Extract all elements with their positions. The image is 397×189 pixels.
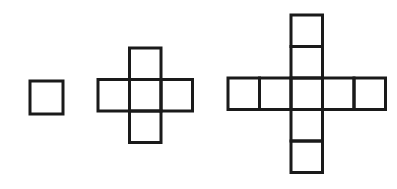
square-tile (98, 80, 130, 112)
square-tile (291, 78, 323, 110)
square-tile (130, 80, 162, 112)
figure-2-five-square-cross (98, 48, 193, 143)
square-tile (130, 111, 162, 143)
square-tile (161, 80, 193, 112)
square-tile (130, 48, 162, 80)
square-tile (228, 78, 260, 110)
square-tile (354, 78, 386, 110)
figure-1-single-square (30, 81, 63, 114)
square-tile (291, 15, 323, 47)
square-tile (323, 78, 355, 110)
square-tile (291, 47, 323, 79)
square-tile (291, 141, 323, 173)
square-tile (30, 81, 63, 114)
cross-pattern-diagram (0, 0, 397, 189)
square-tile (291, 110, 323, 142)
square-tile (260, 78, 292, 110)
figure-3-nine-square-cross (228, 15, 386, 173)
